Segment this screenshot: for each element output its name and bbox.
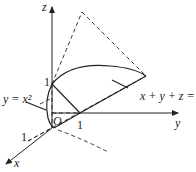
z-axis-label: z [42,1,47,13]
z-tick-label: 1 [44,76,50,88]
diagram-canvas: z 1 y = x² O 1 1 x + y + z = 1 y x [0,0,196,172]
y-axis-label: y [175,117,180,129]
x-axis [6,128,52,164]
plane-equation: x + y + z = 1 [140,90,196,102]
diagram-figure [0,0,196,172]
x-axis-label: x [14,157,19,169]
y-tick-label: 1 [77,119,83,131]
origin-label: O [53,115,62,127]
x-tick-label: 1 [21,131,27,143]
cylinder-equation: y = x² [3,93,31,105]
